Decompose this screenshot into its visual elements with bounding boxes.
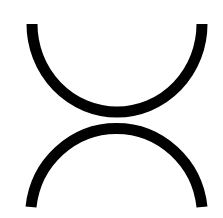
tangent-arcs-symbol-icon [0, 0, 223, 218]
